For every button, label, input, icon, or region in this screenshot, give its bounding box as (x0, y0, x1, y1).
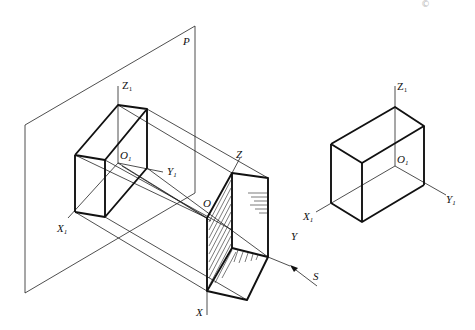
y1-label: Y1 (167, 165, 177, 179)
y-label: Y (291, 230, 299, 242)
y1-axis-right (395, 166, 446, 195)
z-label: Z (236, 148, 243, 160)
projection-plane (25, 26, 195, 293)
y-axis (268, 257, 290, 266)
result-box (316, 86, 446, 222)
z1-label-right: Z1 (397, 80, 408, 94)
x-label: X (195, 306, 204, 318)
s-label: S (313, 270, 319, 282)
object-solid (207, 158, 290, 315)
axonometric-diagram: P Z1 O1 Y1 X1 Z O Y X S Z1 O1 Y1 X1 © (0, 0, 475, 330)
projected-box (68, 86, 163, 218)
x1-label-right: X1 (302, 210, 313, 224)
o1-label: O1 (120, 149, 131, 163)
y1-label-right: Y1 (446, 193, 456, 207)
z-axis (232, 158, 240, 173)
plane-label: P (182, 35, 190, 47)
hatching-right-face (248, 193, 267, 213)
o-label: O (203, 197, 211, 209)
z1-label: Z1 (122, 79, 133, 93)
x1-label: X1 (56, 222, 67, 236)
corner-mark: © (421, 0, 430, 9)
projection-rays (75, 105, 268, 300)
o1-label-right: O1 (397, 153, 408, 167)
x1-axis-right (316, 166, 395, 212)
